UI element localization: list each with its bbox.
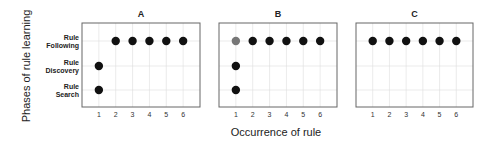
- data-point: [145, 37, 153, 45]
- x-tick-label: 1: [97, 111, 101, 118]
- x-tick-label: 6: [454, 111, 458, 118]
- panel-a: A123456: [82, 9, 200, 118]
- data-point: [162, 37, 170, 45]
- x-tick-label: 2: [114, 111, 118, 118]
- y-tick-label: Search: [56, 91, 79, 98]
- data-point: [435, 37, 443, 45]
- y-tick-label: Rule: [64, 59, 79, 66]
- data-point: [369, 37, 377, 45]
- x-axis-label: Occurrence of rule: [231, 126, 321, 138]
- x-tick-label: 3: [404, 111, 408, 118]
- data-point: [112, 37, 120, 45]
- x-tick-label: 5: [438, 111, 442, 118]
- data-point: [95, 62, 103, 70]
- y-tick-label: Following: [46, 42, 79, 50]
- x-tick-label: 6: [181, 111, 185, 118]
- panel-title: A: [138, 9, 145, 19]
- data-point: [385, 37, 393, 45]
- x-tick-label: 4: [147, 111, 151, 118]
- rule-learning-chart: Phases of rule learning Occurrence of ru…: [0, 0, 489, 146]
- y-tick-label: Rule: [64, 83, 79, 90]
- data-point: [128, 37, 136, 45]
- y-tick-label: Rule: [64, 34, 79, 41]
- x-tick-label: 4: [284, 111, 288, 118]
- panel-c: C123456: [356, 9, 473, 118]
- panel-title: C: [411, 9, 418, 19]
- data-point: [232, 86, 240, 94]
- x-tick-label: 4: [421, 111, 425, 118]
- data-point: [179, 37, 187, 45]
- x-tick-label: 1: [234, 111, 238, 118]
- data-point: [316, 37, 324, 45]
- data-point: [419, 37, 427, 45]
- x-tick-label: 6: [318, 111, 322, 118]
- data-point: [282, 37, 290, 45]
- panel-frame: [356, 23, 473, 107]
- data-point: [299, 37, 307, 45]
- data-point: [232, 37, 240, 45]
- data-point: [232, 62, 240, 70]
- x-tick-label: 5: [301, 111, 305, 118]
- x-tick-label: 3: [131, 111, 135, 118]
- data-point: [452, 37, 460, 45]
- data-point: [249, 37, 257, 45]
- y-axis-label: Phases of rule learning: [20, 10, 32, 123]
- x-tick-label: 5: [164, 111, 168, 118]
- x-tick-label: 3: [268, 111, 272, 118]
- data-point: [95, 86, 103, 94]
- data-point: [402, 37, 410, 45]
- x-tick-label: 2: [251, 111, 255, 118]
- x-tick-label: 2: [387, 111, 391, 118]
- panel-b: B123456: [219, 9, 337, 118]
- y-tick-label: Discovery: [46, 67, 80, 75]
- x-tick-label: 1: [371, 111, 375, 118]
- data-point: [265, 37, 273, 45]
- panel-title: B: [275, 9, 282, 19]
